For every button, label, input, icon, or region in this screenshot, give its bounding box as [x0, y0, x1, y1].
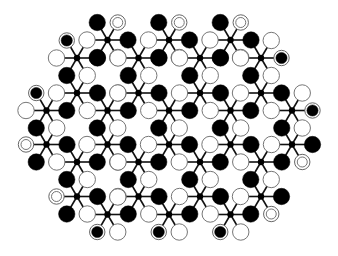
- white-piece[interactable]: [48, 50, 64, 66]
- white-piece[interactable]: [233, 120, 249, 136]
- black-piece[interactable]: [212, 50, 228, 66]
- white-piece[interactable]: [79, 206, 95, 222]
- ringed-black-piece[interactable]: [274, 50, 289, 65]
- white-piece[interactable]: [202, 102, 218, 118]
- black-piece[interactable]: [182, 206, 198, 222]
- white-piece[interactable]: [140, 32, 156, 48]
- white-piece[interactable]: [202, 67, 218, 83]
- black-piece[interactable]: [182, 102, 198, 118]
- black-piece[interactable]: [212, 85, 228, 101]
- ringed-black-piece[interactable]: [213, 224, 228, 239]
- ringed-white-piece[interactable]: [264, 206, 279, 221]
- white-piece[interactable]: [110, 224, 126, 240]
- black-piece[interactable]: [59, 206, 75, 222]
- white-piece[interactable]: [171, 154, 187, 170]
- white-piece[interactable]: [171, 120, 187, 136]
- white-piece[interactable]: [232, 188, 248, 204]
- ringed-black-piece[interactable]: [29, 85, 44, 100]
- black-piece[interactable]: [89, 50, 105, 66]
- white-piece[interactable]: [141, 67, 157, 83]
- white-piece[interactable]: [48, 85, 64, 101]
- black-piece[interactable]: [151, 50, 167, 66]
- white-piece[interactable]: [140, 136, 156, 152]
- ringed-white-piece[interactable]: [110, 15, 125, 30]
- white-piece[interactable]: [233, 154, 249, 170]
- white-piece[interactable]: [49, 120, 65, 136]
- white-piece[interactable]: [202, 206, 218, 222]
- black-piece[interactable]: [243, 32, 259, 48]
- white-piece[interactable]: [110, 85, 126, 101]
- white-piece[interactable]: [79, 102, 95, 118]
- black-piece[interactable]: [212, 154, 228, 170]
- black-piece[interactable]: [59, 67, 75, 83]
- black-piece[interactable]: [182, 67, 198, 83]
- black-piece[interactable]: [89, 14, 105, 30]
- white-piece[interactable]: [79, 171, 95, 187]
- black-piece[interactable]: [274, 120, 290, 136]
- black-piece[interactable]: [182, 171, 198, 187]
- black-piece[interactable]: [120, 136, 136, 152]
- black-piece[interactable]: [120, 206, 136, 222]
- black-piece[interactable]: [212, 14, 228, 30]
- black-piece[interactable]: [151, 85, 167, 101]
- white-piece[interactable]: [141, 102, 157, 118]
- black-piece[interactable]: [89, 120, 105, 136]
- ringed-black-piece[interactable]: [305, 103, 320, 118]
- white-piece[interactable]: [171, 85, 187, 101]
- white-piece[interactable]: [263, 32, 279, 48]
- white-piece[interactable]: [263, 67, 279, 83]
- black-piece[interactable]: [212, 120, 228, 136]
- black-piece[interactable]: [120, 32, 136, 48]
- black-piece[interactable]: [89, 154, 105, 170]
- ringed-white-piece[interactable]: [49, 189, 64, 204]
- black-piece[interactable]: [274, 154, 290, 170]
- black-piece[interactable]: [243, 67, 259, 83]
- ringed-white-piece[interactable]: [18, 137, 33, 152]
- white-piece[interactable]: [18, 102, 34, 118]
- white-piece[interactable]: [110, 50, 126, 66]
- white-piece[interactable]: [263, 102, 279, 118]
- white-piece[interactable]: [233, 224, 249, 240]
- black-piece[interactable]: [273, 85, 289, 101]
- white-piece[interactable]: [110, 154, 126, 170]
- black-piece[interactable]: [212, 188, 228, 204]
- black-piece[interactable]: [151, 120, 167, 136]
- black-piece[interactable]: [151, 154, 167, 170]
- black-piece[interactable]: [181, 32, 197, 48]
- white-piece[interactable]: [171, 224, 187, 240]
- white-piece[interactable]: [263, 171, 279, 187]
- black-piece[interactable]: [28, 120, 44, 136]
- black-piece[interactable]: [59, 136, 75, 152]
- black-piece[interactable]: [59, 171, 75, 187]
- black-piece[interactable]: [28, 154, 44, 170]
- ringed-white-piece[interactable]: [295, 154, 310, 169]
- black-piece[interactable]: [151, 188, 167, 204]
- black-piece[interactable]: [89, 85, 105, 101]
- black-piece[interactable]: [89, 188, 105, 204]
- white-piece[interactable]: [294, 120, 310, 136]
- white-piece[interactable]: [49, 154, 65, 170]
- black-piece[interactable]: [120, 67, 136, 83]
- black-piece[interactable]: [181, 136, 197, 152]
- white-piece[interactable]: [294, 85, 310, 101]
- white-piece[interactable]: [232, 85, 248, 101]
- white-piece[interactable]: [110, 120, 126, 136]
- black-piece[interactable]: [243, 102, 259, 118]
- ringed-black-piece[interactable]: [59, 33, 74, 48]
- white-piece[interactable]: [171, 188, 187, 204]
- white-piece[interactable]: [232, 50, 248, 66]
- black-piece[interactable]: [243, 136, 259, 152]
- white-piece[interactable]: [79, 67, 95, 83]
- ringed-white-piece[interactable]: [172, 15, 187, 30]
- white-piece[interactable]: [79, 136, 95, 152]
- white-piece[interactable]: [141, 206, 157, 222]
- white-piece[interactable]: [110, 189, 126, 205]
- white-piece[interactable]: [263, 136, 279, 152]
- black-piece[interactable]: [243, 171, 259, 187]
- ringed-black-piece[interactable]: [151, 224, 166, 239]
- black-piece[interactable]: [59, 102, 75, 118]
- black-piece[interactable]: [304, 136, 320, 152]
- white-piece[interactable]: [202, 171, 218, 187]
- ringed-black-piece[interactable]: [90, 224, 105, 239]
- black-piece[interactable]: [273, 188, 289, 204]
